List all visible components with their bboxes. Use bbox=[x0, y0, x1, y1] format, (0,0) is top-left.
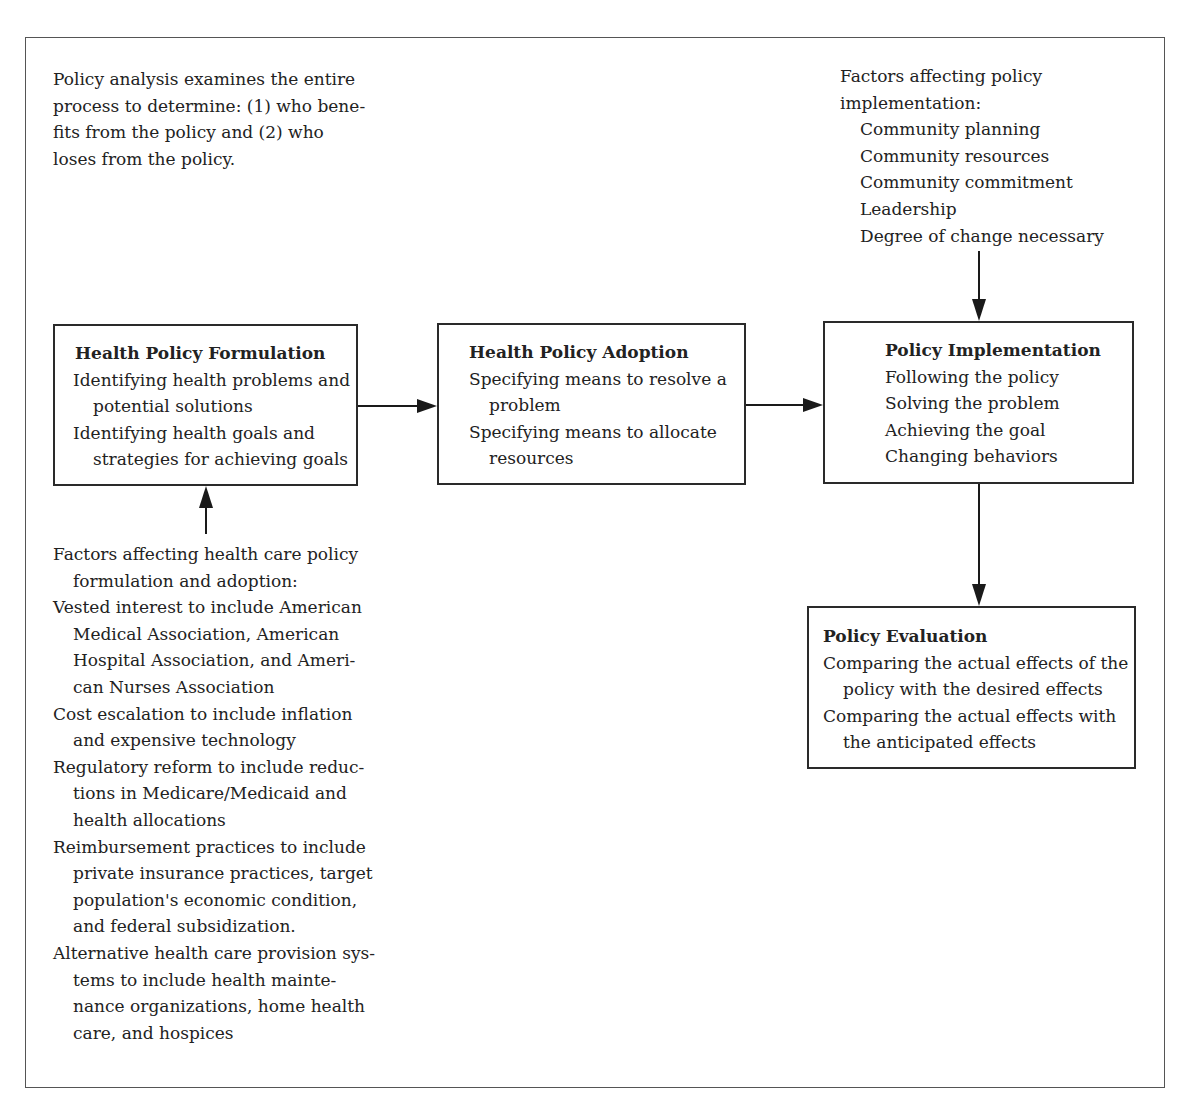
box-line: strategies for achieving goals bbox=[73, 446, 356, 473]
factors-line: private insurance practices, target bbox=[53, 860, 375, 887]
factors-line: tions in Medicare/Medicaid and bbox=[53, 780, 375, 807]
note-line: loses from the policy. bbox=[53, 146, 365, 173]
formulation-box: Health Policy Formulation Identifying he… bbox=[53, 324, 358, 486]
factors-line: Vested interest to include American bbox=[53, 594, 375, 621]
box-line: Specifying means to resolve a bbox=[469, 366, 744, 393]
factors-line: health allocations bbox=[53, 807, 375, 834]
factors-line: tems to include health mainte- bbox=[53, 967, 375, 994]
box-line: policy with the desired effects bbox=[823, 676, 1134, 703]
box-title: Policy Evaluation bbox=[823, 623, 1134, 650]
factors-line: Factors affecting health care policy bbox=[53, 541, 375, 568]
box-line: problem bbox=[469, 392, 744, 419]
box-line: Following the policy bbox=[885, 364, 1132, 391]
box-title: Health Policy Formulation bbox=[75, 340, 356, 367]
factors-line: and federal subsidization. bbox=[53, 913, 375, 940]
adoption-box: Health Policy Adoption Specifying means … bbox=[437, 323, 746, 485]
factors-line: population's economic condition, bbox=[53, 887, 375, 914]
box-line: Changing behaviors bbox=[885, 443, 1132, 470]
factors-heading-line: implementation: bbox=[840, 90, 1104, 117]
factors-line: Medical Association, American bbox=[53, 621, 375, 648]
factor-item: Community commitment bbox=[840, 169, 1104, 196]
factor-item: Community planning bbox=[840, 116, 1104, 143]
note-line: Policy analysis examines the entire bbox=[53, 66, 365, 93]
factors-line: Hospital Association, and Ameri- bbox=[53, 647, 375, 674]
box-line: potential solutions bbox=[73, 393, 356, 420]
factor-item: Leadership bbox=[840, 196, 1104, 223]
box-line: Solving the problem bbox=[885, 390, 1132, 417]
box-line: Comparing the actual effects with bbox=[823, 703, 1134, 730]
box-line: Identifying health goals and bbox=[73, 420, 356, 447]
factor-item: Community resources bbox=[840, 143, 1104, 170]
box-title: Policy Implementation bbox=[885, 337, 1132, 364]
box-line: the anticipated effects bbox=[823, 729, 1134, 756]
note-line: fits from the policy and (2) who bbox=[53, 119, 365, 146]
factors-line: care, and hospices bbox=[53, 1020, 375, 1047]
factor-item: Degree of change necessary bbox=[840, 223, 1104, 250]
box-line: Comparing the actual effects of the bbox=[823, 650, 1134, 677]
factors-line: formulation and adoption: bbox=[53, 568, 375, 595]
factors-line: can Nurses Association bbox=[53, 674, 375, 701]
factors-line: nance organizations, home health bbox=[53, 993, 375, 1020]
box-line: resources bbox=[469, 445, 744, 472]
formulation-factors: Factors affecting health care policy for… bbox=[53, 541, 375, 1046]
factors-line: Regulatory reform to include reduc- bbox=[53, 754, 375, 781]
factors-line: and expensive technology bbox=[53, 727, 375, 754]
implementation-box: Policy Implementation Following the poli… bbox=[823, 321, 1134, 484]
factors-line: Reimbursement practices to include bbox=[53, 834, 375, 861]
box-line: Identifying health problems and bbox=[73, 367, 356, 394]
evaluation-box: Policy Evaluation Comparing the actual e… bbox=[807, 606, 1136, 769]
implementation-factors: Factors affecting policy implementation:… bbox=[840, 63, 1104, 249]
box-title: Health Policy Adoption bbox=[469, 339, 744, 366]
note-line: process to determine: (1) who bene- bbox=[53, 93, 365, 120]
factors-line: Alternative health care provision sys- bbox=[53, 940, 375, 967]
box-line: Specifying means to allocate bbox=[469, 419, 744, 446]
box-line: Achieving the goal bbox=[885, 417, 1132, 444]
policy-analysis-note: Policy analysis examines the entire proc… bbox=[53, 66, 365, 172]
factors-line: Cost escalation to include inflation bbox=[53, 701, 375, 728]
factors-heading-line: Factors affecting policy bbox=[840, 63, 1104, 90]
